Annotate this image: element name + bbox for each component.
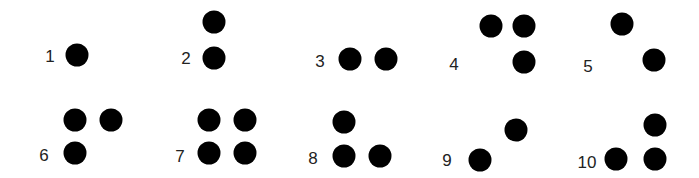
braille-numbers-diagram: 12345678910	[0, 0, 699, 178]
braille-dot	[513, 15, 536, 38]
braille-dot	[513, 51, 536, 74]
number-label: 8	[308, 150, 317, 167]
braille-dot	[64, 109, 87, 132]
braille-dot	[64, 142, 87, 165]
number-label: 10	[578, 154, 597, 171]
braille-dot	[644, 114, 667, 137]
braille-dot	[505, 119, 528, 142]
braille-dot	[469, 149, 492, 172]
number-label: 6	[39, 147, 48, 164]
braille-dot	[644, 148, 667, 171]
braille-dot	[605, 148, 628, 171]
braille-dot	[203, 11, 226, 34]
braille-dot	[234, 142, 257, 165]
braille-dot	[333, 111, 356, 134]
braille-dot	[480, 15, 503, 38]
number-label: 9	[442, 152, 451, 169]
braille-dot	[100, 109, 123, 132]
number-label: 1	[45, 48, 54, 65]
braille-dot	[339, 48, 362, 71]
number-label: 5	[583, 58, 592, 75]
braille-dot	[198, 109, 221, 132]
braille-dot	[198, 142, 221, 165]
braille-dot	[333, 145, 356, 168]
braille-dot	[643, 49, 666, 72]
braille-dot	[66, 44, 89, 67]
braille-dot	[375, 48, 398, 71]
braille-dot	[203, 47, 226, 70]
braille-dot	[611, 13, 634, 36]
number-label: 3	[315, 53, 324, 70]
number-label: 4	[449, 56, 458, 73]
braille-dot	[234, 109, 257, 132]
number-label: 7	[175, 148, 184, 165]
braille-dot	[369, 145, 392, 168]
number-label: 2	[181, 50, 190, 67]
